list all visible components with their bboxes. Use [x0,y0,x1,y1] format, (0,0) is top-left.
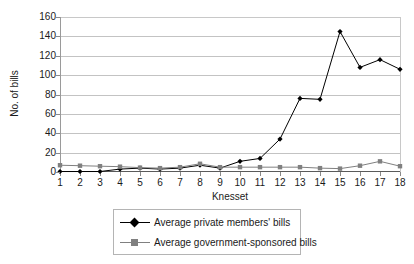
legend-item-private-members-bills[interactable]: Average private members' bills [114,213,300,232]
data-point-marker [377,57,382,62]
legend-label-government-sponsored-bills: Average government-sponsored bills [154,237,317,249]
data-point-marker [278,165,282,169]
data-point-marker [378,159,382,163]
data-point-marker [237,159,242,164]
y-tick-mark [56,56,60,57]
legend-item-government-sponsored-bills[interactable]: Average government-sponsored bills [114,233,300,252]
data-point-marker [158,166,162,170]
data-point-marker [138,165,142,169]
y-tick-mark [56,95,60,96]
data-point-marker [78,164,82,168]
y-tick-mark [56,36,60,37]
data-point-marker [297,96,302,101]
data-point-marker [317,97,322,102]
data-point-marker [337,29,342,34]
data-point-marker [218,165,222,169]
data-point-marker [358,164,362,168]
data-point-marker [98,164,102,168]
y-tick-mark [56,133,60,134]
data-point-marker [398,164,402,168]
square-marker-icon [120,235,150,251]
data-point-marker [97,169,102,174]
data-point-marker [118,164,122,168]
data-point-marker [77,169,82,174]
chart-legend: Average private members' bills Average g… [113,209,301,255]
data-point-marker [397,67,402,72]
data-point-marker [58,163,62,167]
line-chart-figure: No. of bills 020406080100120140160 12345… [0,0,414,264]
y-tick-mark [56,75,60,76]
series-line-1 [60,32,400,172]
y-tick-mark [56,114,60,115]
data-point-marker [258,165,262,169]
data-point-marker [357,65,362,70]
data-point-marker [238,165,242,169]
y-tick-mark [56,172,60,173]
data-point-marker [318,166,322,170]
data-point-marker [178,165,182,169]
legend-label-private-members-bills: Average private members' bills [154,217,290,229]
y-tick-mark [56,153,60,154]
y-tick-mark [56,17,60,18]
data-point-marker [298,165,302,169]
data-point-marker [338,166,342,170]
data-point-marker [198,162,202,166]
diamond-marker-icon [120,215,150,231]
